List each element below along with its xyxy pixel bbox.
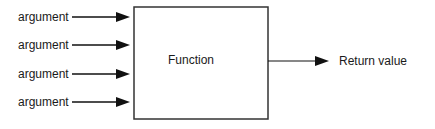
- input-label-2: argument: [18, 38, 69, 52]
- return-value-label: Return value: [339, 54, 407, 68]
- input-arrow-1: [72, 12, 130, 22]
- input-label-1: argument: [18, 10, 69, 24]
- input-label-4: argument: [18, 95, 69, 109]
- output-arrow: [268, 56, 329, 66]
- input-arrow-4: [72, 97, 130, 107]
- input-arrow-2: [72, 40, 130, 50]
- function-label: Function: [168, 53, 214, 67]
- input-arrow-3: [72, 69, 130, 79]
- input-label-3: argument: [18, 67, 69, 81]
